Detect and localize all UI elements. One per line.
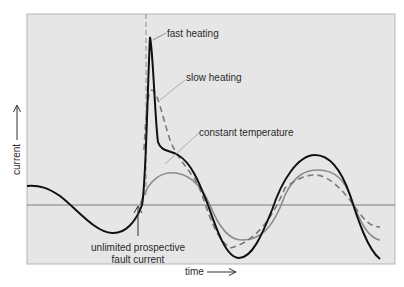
- fast-heating-label: fast heating: [167, 28, 219, 39]
- y-axis-label: current: [11, 144, 22, 175]
- prospective-label-line2: fault current: [112, 254, 165, 265]
- slow-heating-label: slow heating: [186, 72, 242, 83]
- plot-area: [27, 14, 395, 264]
- current-vs-time-chart: fast heating slow heating constant tempe…: [0, 0, 404, 287]
- x-axis-label: time: [185, 266, 204, 277]
- constant-temperature-label: constant temperature: [199, 127, 294, 138]
- prospective-label-line1: unlimited prospective: [91, 242, 185, 253]
